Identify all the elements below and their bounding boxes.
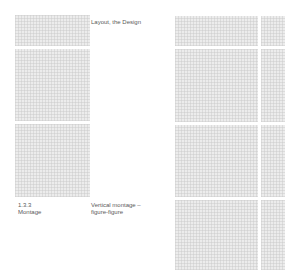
right-panel-r2-main bbox=[175, 49, 258, 122]
left-panel-1 bbox=[15, 15, 90, 46]
left-panel-2 bbox=[15, 49, 90, 121]
left-panel-3 bbox=[15, 124, 90, 197]
section-name: Montage bbox=[18, 209, 41, 216]
caption-line-2: figure-figure bbox=[91, 209, 123, 216]
caption-line-1: Vertical montage – bbox=[91, 202, 141, 209]
section-number: 1.3.3 bbox=[18, 202, 31, 209]
right-panel-r4-strip bbox=[261, 200, 285, 270]
right-panel-r1-main bbox=[175, 16, 258, 46]
right-panel-r1-strip bbox=[261, 16, 285, 46]
right-panel-r3-main bbox=[175, 125, 258, 197]
right-panel-r2-strip bbox=[261, 49, 285, 122]
page-title: Layout, the Design bbox=[91, 19, 141, 26]
right-panel-r4-main bbox=[175, 200, 258, 270]
right-panel-r3-strip bbox=[261, 125, 285, 197]
